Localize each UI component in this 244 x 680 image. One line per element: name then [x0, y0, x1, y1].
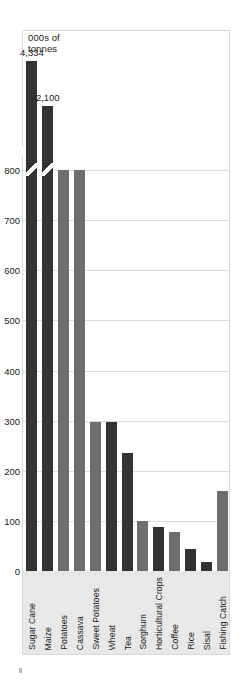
- bar-sorghum: [137, 521, 148, 571]
- y-tick-label-200: 200: [4, 465, 20, 476]
- bars-layer: 4,3342,100: [23, 31, 229, 571]
- category-label-tea: Tea: [123, 636, 133, 650]
- bar-sugar-cane: [26, 61, 37, 571]
- category-label-sorghum: Sorghum: [138, 614, 148, 650]
- bar-cassava: [74, 170, 85, 571]
- footer-artifact: [19, 668, 22, 673]
- bar-break-mark: [25, 163, 38, 176]
- value-label-sugar-cane: 4,334: [20, 47, 44, 58]
- category-label-coffee: Coffee: [170, 624, 180, 650]
- category-label-fishing-catch: Fishing Catch: [218, 596, 228, 650]
- value-label-maize: 2,100: [36, 92, 60, 103]
- bar-rice: [185, 549, 196, 571]
- y-tick-label-700: 700: [4, 215, 20, 226]
- y-tick-label-300: 300: [4, 415, 20, 426]
- category-label-sweet-potatoes: Sweet Potatoes: [91, 588, 101, 650]
- y-axis-break-marker: [21, 141, 26, 156]
- bar-sweet-potatoes: [90, 422, 101, 571]
- category-label-cassava: Cassava: [75, 616, 85, 650]
- category-label-horticultural-crops: Horticultural Crops: [154, 577, 164, 650]
- bar-coffee: [169, 532, 180, 571]
- y-tick-label-600: 600: [4, 265, 20, 276]
- category-label-sisal: Sisal: [202, 631, 212, 650]
- bar-chart-figure: 000s of tonnes 0100200300400500600700800…: [0, 0, 244, 680]
- bar-horticultural-crops: [153, 527, 164, 571]
- bar-maize: [42, 106, 53, 571]
- y-tick-label-100: 100: [4, 515, 20, 526]
- bar-fishing-catch: [217, 491, 228, 571]
- bar-potatoes: [58, 170, 69, 571]
- bar-tea: [122, 453, 133, 571]
- y-tick-label-0: 0: [15, 566, 20, 577]
- category-label-band: Sugar CaneMaizePotatoesCassavaSweet Pota…: [23, 571, 229, 654]
- bar-sisal: [201, 562, 212, 571]
- y-axis-tick-labels: 0100200300400500600700800: [0, 31, 20, 571]
- y-tick-label-800: 800: [4, 165, 20, 176]
- bar-break-mark: [41, 163, 54, 176]
- y-tick-label-500: 500: [4, 315, 20, 326]
- bar-wheat: [106, 422, 117, 571]
- category-label-maize: Maize: [43, 627, 53, 650]
- category-label-wheat: Wheat: [107, 625, 117, 650]
- category-label-sugar-cane: Sugar Cane: [27, 603, 37, 650]
- category-label-potatoes: Potatoes: [59, 615, 69, 650]
- y-tick-label-400: 400: [4, 365, 20, 376]
- category-label-rice: Rice: [186, 632, 196, 650]
